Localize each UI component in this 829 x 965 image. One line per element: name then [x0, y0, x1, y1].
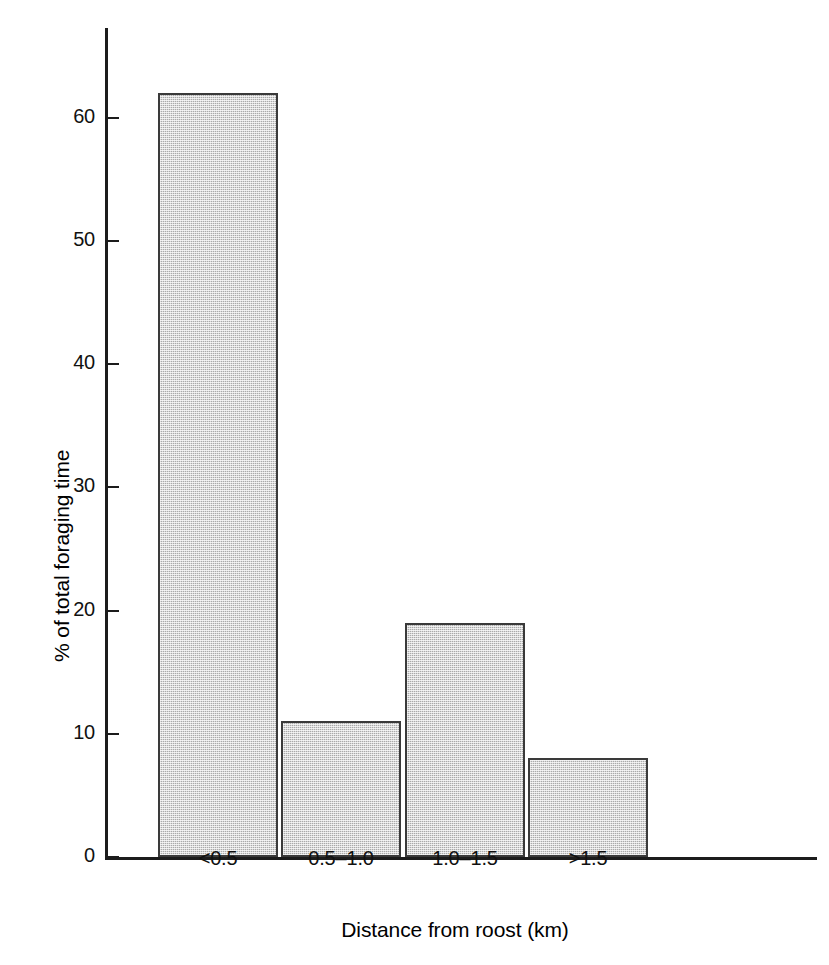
y-axis-tick-label: 20 — [35, 599, 95, 620]
y-axis-tick-label: 60 — [35, 106, 95, 127]
x-axis-tick-label: >1.5 — [488, 847, 688, 870]
y-axis-tick: 60 — [108, 117, 119, 119]
y-axis-tick: 40 — [108, 363, 119, 365]
y-axis-tick: 50 — [108, 240, 119, 242]
bar — [281, 721, 401, 857]
y-axis-tick: 30 — [108, 486, 119, 488]
bar-chart: % of total foraging time 0102030405060 <… — [0, 0, 829, 965]
bar — [405, 623, 525, 857]
y-axis-tick: 20 — [108, 610, 119, 612]
y-axis-tick-label: 10 — [35, 722, 95, 743]
y-axis-tick-label: 50 — [35, 229, 95, 250]
bar — [528, 758, 648, 857]
bar — [158, 93, 278, 857]
y-axis-tick-label: 40 — [35, 352, 95, 373]
plot-area: 0102030405060 — [105, 28, 817, 860]
y-axis-tick-label: 30 — [35, 475, 95, 496]
y-axis-tick: 10 — [108, 733, 119, 735]
y-axis-tick-label: 0 — [35, 845, 95, 866]
x-axis-title: Distance from roost (km) — [105, 918, 805, 942]
y-axis-line — [105, 28, 108, 860]
